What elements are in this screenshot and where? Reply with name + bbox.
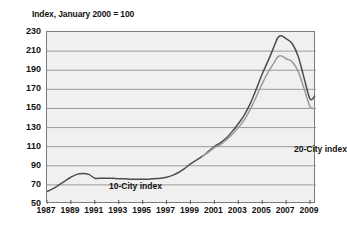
y-tick-label: 190	[26, 64, 41, 74]
x-tick-label: 2003	[228, 205, 247, 215]
x-tick-label: 1995	[132, 205, 151, 215]
series-label-20-city: 20-City index	[294, 144, 347, 154]
y-axis: 230210190170150130110907050	[0, 31, 44, 203]
y-tick-label: 110	[26, 141, 41, 151]
series-line-10-city	[47, 36, 315, 192]
x-tick-label: 2007	[276, 205, 295, 215]
x-tick-label: 1993	[108, 205, 127, 215]
y-tick-label: 150	[26, 102, 41, 112]
y-tick-label: 90	[31, 160, 41, 170]
x-tick-label: 1997	[156, 205, 175, 215]
plot-wrapper: 10-City index 20-City index	[46, 31, 315, 203]
y-tick-label: 210	[26, 45, 41, 55]
x-tick-label: 1987	[37, 205, 56, 215]
plot-area	[46, 31, 315, 203]
x-tick-label: 1999	[180, 205, 199, 215]
x-tick-label: 1991	[84, 205, 103, 215]
x-axis: 1987198919911993199519971999200120032005…	[46, 205, 315, 221]
y-tick-label: 70	[31, 179, 41, 189]
x-tick-label: 1989	[60, 205, 79, 215]
y-tick-label: 170	[26, 83, 41, 93]
y-tick-label: 130	[26, 122, 41, 132]
x-tick-label: 2005	[252, 205, 271, 215]
x-tick-label: 2001	[204, 205, 223, 215]
x-tick-label: 2009	[300, 205, 319, 215]
chart-title: Index, January 2000 = 100	[32, 9, 134, 19]
series-lines	[47, 32, 316, 204]
series-label-10-city: 10-City index	[109, 181, 162, 191]
series-line-20-city	[202, 56, 314, 156]
y-tick-label: 230	[26, 26, 41, 36]
